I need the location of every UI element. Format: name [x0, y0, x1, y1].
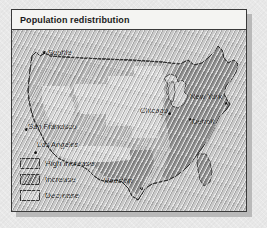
- city-label-detroit: Detroit: [192, 117, 214, 126]
- high-increase-swatch: [20, 158, 40, 169]
- city-label-seattle: Seattle: [48, 48, 72, 57]
- city-dot-san-francisco: [25, 128, 28, 131]
- increase-swatch: [20, 174, 40, 185]
- legend-label-decrease: Decrease: [45, 191, 79, 200]
- map-legend: High increase Increase Decrease: [20, 156, 120, 204]
- city-dot-detroit: [189, 118, 192, 121]
- city-label-san-francisco: San Francisco: [28, 122, 77, 131]
- figure-root: Population redistribution: [0, 0, 267, 228]
- legend-label-increase: Increase: [45, 175, 76, 184]
- legend-item-decrease: Decrease: [20, 188, 120, 202]
- city-dot-los-angeles: [34, 151, 37, 154]
- map-figure-panel: Population redistribution: [11, 9, 247, 212]
- city-dot-houston: [140, 187, 143, 190]
- legend-label-high-increase: High increase: [45, 159, 94, 168]
- city-label-los-angeles: Los Angeles: [37, 140, 78, 149]
- map-canvas: Seattle San Francisco Los Angeles Housto…: [12, 30, 246, 211]
- city-label-new-york: New York: [190, 92, 222, 101]
- figure-title-bar: Population redistribution: [12, 10, 246, 30]
- legend-item-high-increase: High increase: [20, 156, 120, 170]
- city-dot-chicago: [168, 112, 171, 115]
- lake-michigan: [168, 82, 175, 102]
- city-dot-seattle: [43, 51, 46, 54]
- city-dot-new-york: [225, 102, 228, 105]
- page-title: Population redistribution: [12, 15, 130, 25]
- city-label-chicago: Chicago: [140, 106, 168, 115]
- florida-peninsula: [197, 154, 212, 186]
- decrease-swatch: [20, 190, 40, 201]
- legend-item-increase: Increase: [20, 172, 120, 186]
